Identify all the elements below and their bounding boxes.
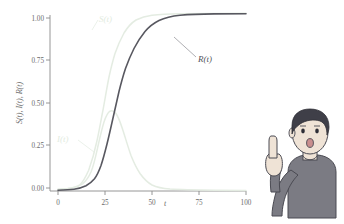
curve-r-of-t <box>58 14 246 190</box>
y-tick-label-000: 0.00 <box>31 185 44 193</box>
y-tick-label-100: 1.00 <box>31 15 44 23</box>
x-tick-label-100: 100 <box>241 199 252 207</box>
sir-model-figure: 1.00 0.75 0.50 0.25 0.00 0 25 50 75 100 … <box>0 0 344 224</box>
s-label-leader-line <box>92 20 98 30</box>
curve-label-r: R(t) <box>197 54 212 64</box>
r-label-leader-line <box>174 37 196 57</box>
y-axis-ticks <box>46 18 50 188</box>
x-axis-title: t <box>164 199 167 208</box>
person-pointing-up-illustration <box>258 106 344 220</box>
curve-s-of-t <box>58 13 246 189</box>
x-axis-ticks <box>58 191 246 195</box>
x-tick-label-25: 25 <box>101 199 109 207</box>
y-tick-label-050: 0.50 <box>31 100 44 108</box>
curve-label-i: I(t) <box>56 134 69 144</box>
y-tick-label-025: 0.25 <box>31 142 44 150</box>
x-tick-label-50: 50 <box>148 199 156 207</box>
curve-i-of-t <box>58 111 246 191</box>
right-eye <box>315 129 319 134</box>
mouth <box>307 139 314 148</box>
left-eye <box>301 129 305 134</box>
i-label-leader-line <box>78 140 94 152</box>
y-tick-label-075: 0.75 <box>31 57 44 65</box>
y-axis-title: S(t), I(t), R(t) <box>15 82 24 125</box>
x-tick-label-0: 0 <box>56 199 60 207</box>
x-tick-label-75: 75 <box>195 199 203 207</box>
torso-shirt <box>288 155 336 218</box>
index-finger <box>269 136 277 158</box>
curve-label-s: S(t) <box>99 14 112 24</box>
